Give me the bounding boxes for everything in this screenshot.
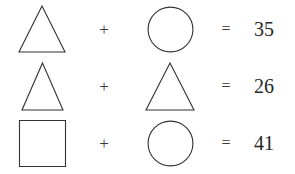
triangle-shape — [136, 57, 204, 115]
equals-operator: = — [210, 0, 242, 58]
square-icon — [18, 119, 67, 168]
circle-shape — [136, 114, 204, 172]
triangle-shape — [8, 0, 76, 58]
triangle-icon — [20, 61, 65, 112]
result-value: 26 — [248, 57, 292, 115]
equation-row: + = 41 — [0, 114, 295, 172]
triangle-shape — [8, 57, 76, 115]
circle-icon — [147, 6, 194, 53]
plus-operator: + — [86, 57, 122, 115]
result-value: 41 — [248, 114, 292, 172]
equation-row: + = 35 — [0, 0, 295, 58]
triangle-icon — [17, 4, 67, 54]
circle-shape — [136, 0, 204, 58]
plus-operator: + — [86, 0, 122, 58]
plus-operator: + — [86, 114, 122, 172]
triangle-icon — [144, 61, 196, 112]
equation-row: + = 26 — [0, 57, 295, 115]
circle-icon — [147, 120, 194, 167]
equals-operator: = — [210, 57, 242, 115]
result-value: 35 — [248, 0, 292, 58]
shape-equation-puzzle: + = 35 + = 26 — [0, 0, 295, 174]
equals-operator: = — [210, 114, 242, 172]
square-shape — [8, 114, 76, 172]
